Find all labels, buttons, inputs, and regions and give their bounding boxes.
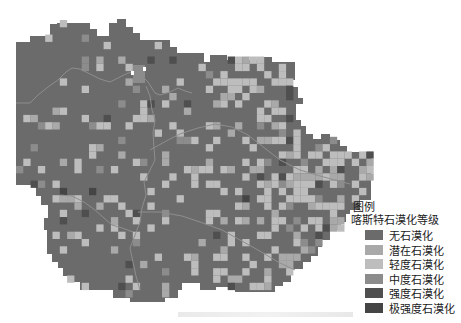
raster-cell: [235, 188, 242, 195]
raster-cell: [286, 173, 293, 180]
raster-cell: [315, 239, 322, 246]
raster-cell: [67, 232, 74, 239]
raster-cell: [286, 86, 293, 93]
raster-cell: [184, 137, 191, 144]
raster-cell: [118, 283, 125, 290]
raster-cell: [264, 137, 271, 144]
raster-cell: [60, 217, 67, 224]
raster-cell: [366, 173, 373, 180]
raster-cell: [191, 173, 198, 180]
raster-cell: [301, 173, 308, 180]
raster-cell: [301, 188, 308, 195]
raster-cell: [337, 159, 344, 166]
raster-cell: [337, 173, 344, 180]
raster-cell: [308, 203, 315, 210]
raster-cell: [162, 268, 169, 275]
raster-cell: [199, 239, 206, 246]
raster-cell: [257, 166, 264, 173]
raster-cell: [293, 217, 300, 224]
raster-cell: [16, 166, 23, 173]
raster-cell: [104, 42, 111, 49]
raster-cell: [96, 144, 103, 151]
raster-cell: [337, 151, 344, 158]
raster-cell: [242, 203, 249, 210]
raster-cell: [235, 78, 242, 85]
raster-cell: [286, 181, 293, 188]
raster-cell: [264, 195, 271, 202]
raster-cell: [286, 268, 293, 275]
raster-cell: [228, 86, 235, 93]
raster-cell: [220, 166, 227, 173]
raster-cell: [279, 137, 286, 144]
raster-cell: [74, 232, 81, 239]
raster-cell: [89, 144, 96, 151]
raster-cell: [155, 130, 162, 137]
raster-cell: [147, 188, 154, 195]
raster-cell: [366, 159, 373, 166]
raster-cell: [220, 71, 227, 78]
raster-cell: [213, 100, 220, 107]
raster-cell: [330, 166, 337, 173]
raster-cell: [96, 166, 103, 173]
raster-cell: [191, 254, 198, 261]
raster-cell: [250, 261, 257, 268]
raster-cell: [257, 159, 264, 166]
raster-cell: [228, 93, 235, 100]
raster-cell: [323, 144, 330, 151]
raster-cell: [60, 195, 67, 202]
raster-cell: [330, 151, 337, 158]
raster-cell: [242, 268, 249, 275]
raster-cell: [250, 283, 257, 290]
raster-cell: [242, 78, 249, 85]
raster-cell: [31, 144, 38, 151]
raster-cell: [272, 210, 279, 217]
raster-cell: [213, 181, 220, 188]
raster-cell: [220, 100, 227, 107]
raster-cell: [155, 254, 162, 261]
raster-cell: [82, 57, 89, 64]
raster-cell: [250, 144, 257, 151]
raster-cell: [140, 115, 147, 122]
raster-cell: [162, 283, 169, 290]
raster-cell: [345, 151, 352, 158]
raster-cell: [213, 268, 220, 275]
raster-cell: [169, 173, 176, 180]
raster-cell: [126, 78, 133, 85]
raster-cell: [242, 173, 249, 180]
raster-cell: [315, 173, 322, 180]
raster-cell: [293, 130, 300, 137]
legend-item-none: 无石漠化: [365, 228, 455, 243]
raster-cell: [206, 159, 213, 166]
legend-item-potential: 潜在石漠化: [365, 243, 455, 258]
raster-cell: [242, 217, 249, 224]
raster-cell: [213, 210, 220, 217]
raster-cell: [257, 195, 264, 202]
raster-cell: [366, 151, 373, 158]
raster-cell: [191, 261, 198, 268]
raster-cell: [228, 239, 235, 246]
raster-cell: [279, 173, 286, 180]
raster-cell: [53, 108, 60, 115]
legend-label: 极强度石漠化: [389, 300, 455, 316]
raster-cell: [315, 217, 322, 224]
raster-cell: [279, 64, 286, 71]
raster-cell: [162, 181, 169, 188]
raster-cell: [279, 188, 286, 195]
raster-cell: [206, 217, 213, 224]
raster-cell: [213, 137, 220, 144]
raster-cell: [264, 71, 271, 78]
raster-cell: [293, 137, 300, 144]
raster-cell: [82, 86, 89, 93]
raster-cell: [53, 122, 60, 129]
raster-cell: [242, 159, 249, 166]
raster-cell: [126, 210, 133, 217]
raster-cell: [38, 166, 45, 173]
raster-cell: [286, 151, 293, 158]
raster-cell: [315, 166, 322, 173]
raster-cell: [330, 181, 337, 188]
raster-cell: [220, 217, 227, 224]
raster-cell: [257, 217, 264, 224]
legend: 图例 喀斯特石漠化等级 无石漠化 潜在石漠化 轻度石漠化 中度石漠化 强度石漠化…: [353, 201, 455, 315]
raster-cell: [67, 276, 74, 283]
raster-cell: [264, 115, 271, 122]
